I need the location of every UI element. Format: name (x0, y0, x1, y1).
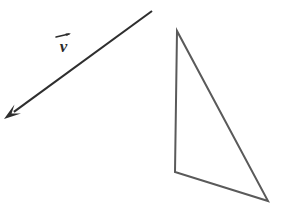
figure-background (0, 0, 282, 215)
vector-label-letter: v (55, 38, 72, 55)
vector-label: v (55, 31, 72, 55)
figure-canvas (0, 0, 282, 215)
